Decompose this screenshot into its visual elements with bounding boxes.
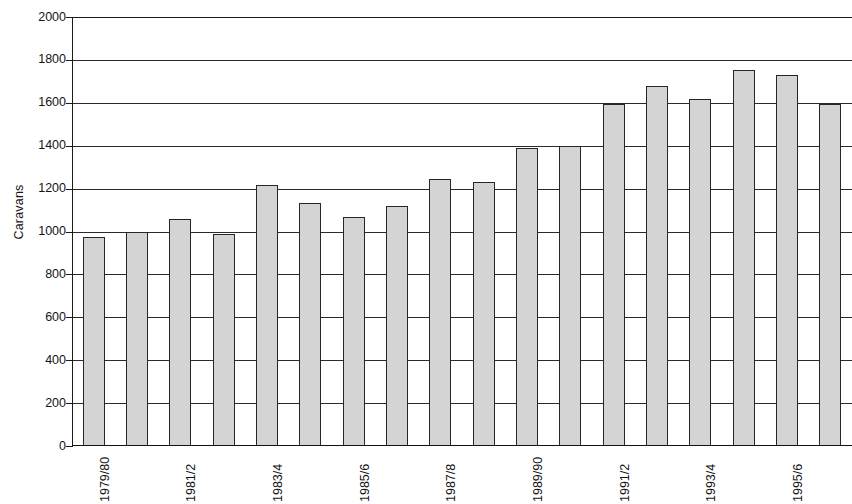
caravans-bar-chart: Caravans 2000180016001400120010008006004…: [0, 0, 852, 504]
x-axis-line: [72, 445, 852, 446]
bar: [83, 237, 105, 446]
x-tick-label: 1987/8: [445, 464, 458, 502]
y-tick-label: 800: [22, 268, 66, 281]
y-tick-mark: [66, 446, 73, 447]
bar: [516, 148, 538, 446]
bar: [256, 185, 278, 446]
bar: [733, 70, 755, 446]
y-tick-label: 400: [22, 354, 66, 367]
y-tick-label: 600: [22, 311, 66, 324]
x-axis-tick-labels: 1979/801981/21983/41985/61987/81989/9019…: [72, 449, 852, 504]
bar: [473, 182, 495, 446]
bar: [213, 234, 235, 446]
bar: [169, 219, 191, 446]
y-axis-line: [72, 17, 73, 446]
y-tick-label: 200: [22, 397, 66, 410]
x-tick-label: 1985/6: [359, 464, 372, 502]
plot-top-frame: [72, 17, 852, 18]
x-tick-label: 1995/6: [792, 464, 805, 502]
x-tick-label: 1989/90: [532, 457, 545, 502]
bar: [819, 104, 841, 446]
y-tick-label: 1400: [22, 139, 66, 152]
x-tick-label: 1991/2: [619, 464, 632, 502]
y-axis-tick-labels: 2000180016001400120010008006004002000: [16, 0, 66, 504]
y-tick-label: 1800: [22, 53, 66, 66]
bar: [343, 217, 365, 447]
y-tick-label: 1000: [22, 225, 66, 238]
bar: [386, 206, 408, 446]
y-tick-label: 2000: [22, 11, 66, 24]
bar: [126, 232, 148, 447]
bar: [776, 75, 798, 446]
bar: [646, 86, 668, 446]
x-tick-label: 1981/2: [185, 464, 198, 502]
y-tick-label: 0: [22, 440, 66, 453]
y-tick-label: 1600: [22, 96, 66, 109]
y-tick-label: 1200: [22, 182, 66, 195]
bar: [299, 203, 321, 446]
gridline: [72, 60, 852, 61]
plot-area: [72, 17, 852, 446]
bar: [429, 179, 451, 446]
x-tick-label: 1979/80: [99, 457, 112, 502]
bar: [559, 146, 581, 446]
x-tick-label: 1983/4: [272, 464, 285, 502]
bar: [603, 104, 625, 446]
x-tick-label: 1993/4: [705, 464, 718, 502]
bar: [689, 99, 711, 446]
